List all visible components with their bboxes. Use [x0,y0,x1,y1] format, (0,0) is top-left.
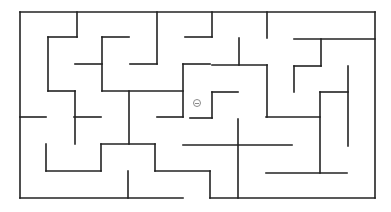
player-token-icon[interactable] [193,99,201,107]
